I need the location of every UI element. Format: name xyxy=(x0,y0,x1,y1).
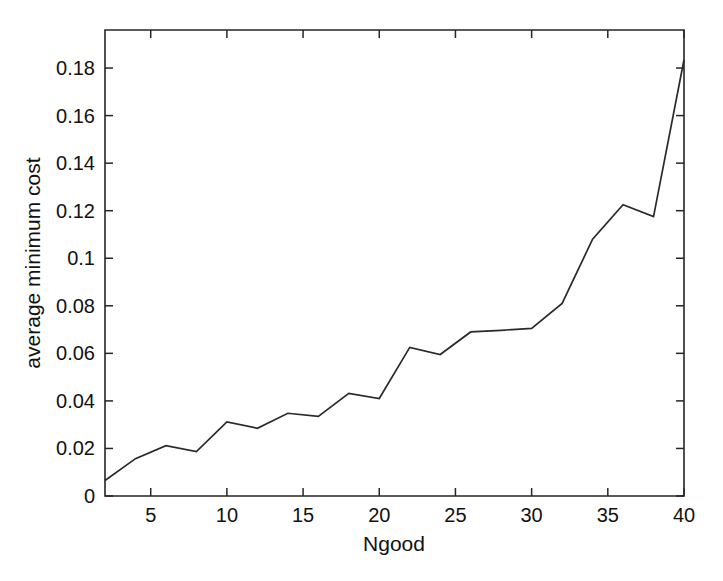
x-axis-title: Ngood xyxy=(363,532,425,555)
y-axis-ticks xyxy=(105,68,684,496)
x-axis-tick-labels: 510152025303540 xyxy=(145,504,695,526)
chart-figure: 510152025303540 00.020.040.060.080.10.12… xyxy=(0,0,723,581)
y-tick-label: 0.1 xyxy=(67,247,95,269)
y-tick-label: 0.06 xyxy=(56,342,95,364)
x-tick-label: 5 xyxy=(145,504,156,526)
data-series-group xyxy=(105,60,684,481)
y-tick-label: 0.16 xyxy=(56,105,95,127)
line-chart-plot: 510152025303540 00.020.040.060.080.10.12… xyxy=(0,0,723,581)
x-tick-label: 15 xyxy=(292,504,314,526)
y-tick-label: 0.12 xyxy=(56,200,95,222)
x-axis-ticks xyxy=(151,30,684,496)
axes-frame xyxy=(105,30,684,496)
x-tick-label: 10 xyxy=(216,504,238,526)
y-tick-label: 0.02 xyxy=(56,437,95,459)
y-tick-label: 0.04 xyxy=(56,390,95,412)
data-line-average-minimum-cost xyxy=(105,60,684,481)
y-tick-label: 0.14 xyxy=(56,152,95,174)
x-tick-label: 20 xyxy=(368,504,390,526)
x-tick-label: 25 xyxy=(444,504,466,526)
y-axis-title: average minimum cost xyxy=(21,157,44,368)
y-tick-label: 0.18 xyxy=(56,57,95,79)
x-tick-label: 35 xyxy=(597,504,619,526)
y-axis-tick-labels: 00.020.040.060.080.10.120.140.160.18 xyxy=(56,57,95,507)
y-tick-label: 0 xyxy=(84,485,95,507)
x-tick-label: 40 xyxy=(673,504,695,526)
y-tick-label: 0.08 xyxy=(56,295,95,317)
x-tick-label: 30 xyxy=(521,504,543,526)
